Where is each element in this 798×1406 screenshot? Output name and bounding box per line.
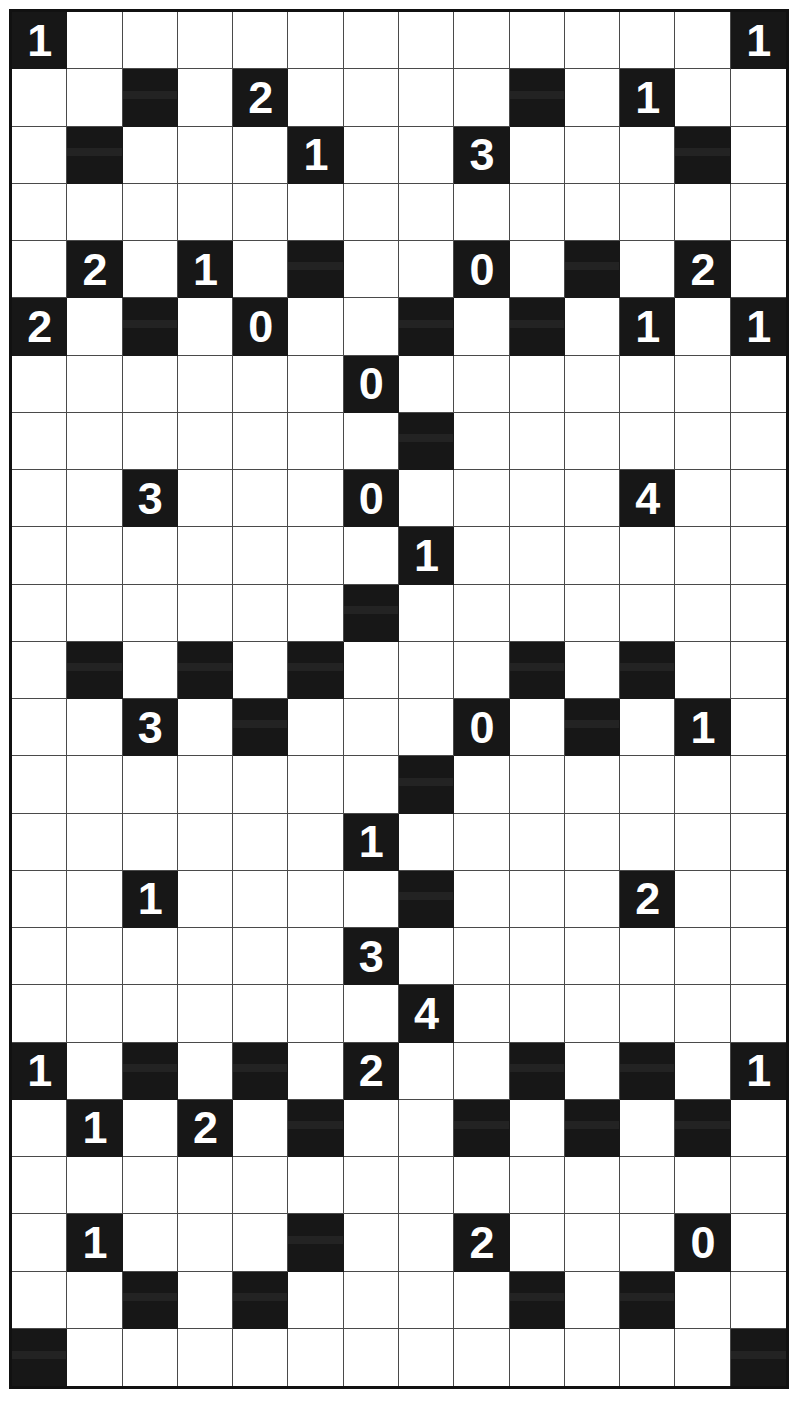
empty-cell-r15-c10[interactable] <box>565 871 620 928</box>
clue-cell-r2-c8[interactable]: 3 <box>454 127 509 184</box>
empty-cell-r13-c0[interactable] <box>12 756 67 813</box>
empty-cell-r8-c1[interactable] <box>67 470 122 527</box>
block-cell-r19-c8[interactable] <box>454 1100 509 1157</box>
empty-cell-r20-c0[interactable] <box>12 1157 67 1214</box>
empty-cell-r15-c3[interactable] <box>178 871 233 928</box>
empty-cell-r20-c12[interactable] <box>675 1157 730 1214</box>
block-cell-r22-c2[interactable] <box>123 1272 178 1329</box>
empty-cell-r22-c7[interactable] <box>399 1272 454 1329</box>
empty-cell-r6-c8[interactable] <box>454 356 509 413</box>
empty-cell-r17-c4[interactable] <box>233 985 288 1042</box>
empty-cell-r23-c12[interactable] <box>675 1329 730 1386</box>
block-cell-r18-c9[interactable] <box>510 1043 565 1100</box>
empty-cell-r15-c9[interactable] <box>510 871 565 928</box>
empty-cell-r0-c5[interactable] <box>288 12 343 69</box>
empty-cell-r2-c3[interactable] <box>178 127 233 184</box>
empty-cell-r12-c0[interactable] <box>12 699 67 756</box>
block-cell-r11-c11[interactable] <box>620 642 675 699</box>
empty-cell-r13-c10[interactable] <box>565 756 620 813</box>
empty-cell-r9-c1[interactable] <box>67 527 122 584</box>
empty-cell-r16-c4[interactable] <box>233 928 288 985</box>
empty-cell-r10-c1[interactable] <box>67 585 122 642</box>
empty-cell-r8-c13[interactable] <box>731 470 786 527</box>
empty-cell-r17-c6[interactable] <box>344 985 399 1042</box>
empty-cell-r14-c9[interactable] <box>510 814 565 871</box>
empty-cell-r4-c2[interactable] <box>123 241 178 298</box>
empty-cell-r12-c1[interactable] <box>67 699 122 756</box>
empty-cell-r2-c13[interactable] <box>731 127 786 184</box>
empty-cell-r9-c13[interactable] <box>731 527 786 584</box>
empty-cell-r15-c8[interactable] <box>454 871 509 928</box>
empty-cell-r23-c6[interactable] <box>344 1329 399 1386</box>
empty-cell-r23-c2[interactable] <box>123 1329 178 1386</box>
clue-cell-r0-c0[interactable]: 1 <box>12 12 67 69</box>
empty-cell-r23-c4[interactable] <box>233 1329 288 1386</box>
empty-cell-r5-c1[interactable] <box>67 298 122 355</box>
empty-cell-r23-c3[interactable] <box>178 1329 233 1386</box>
empty-cell-r9-c9[interactable] <box>510 527 565 584</box>
empty-cell-r15-c4[interactable] <box>233 871 288 928</box>
empty-cell-r11-c4[interactable] <box>233 642 288 699</box>
empty-cell-r19-c0[interactable] <box>12 1100 67 1157</box>
clue-cell-r8-c6[interactable]: 0 <box>344 470 399 527</box>
empty-cell-r13-c6[interactable] <box>344 756 399 813</box>
empty-cell-r12-c9[interactable] <box>510 699 565 756</box>
empty-cell-r7-c0[interactable] <box>12 413 67 470</box>
empty-cell-r20-c8[interactable] <box>454 1157 509 1214</box>
empty-cell-r20-c2[interactable] <box>123 1157 178 1214</box>
empty-cell-r19-c11[interactable] <box>620 1100 675 1157</box>
empty-cell-r18-c10[interactable] <box>565 1043 620 1100</box>
empty-cell-r3-c2[interactable] <box>123 184 178 241</box>
empty-cell-r16-c12[interactable] <box>675 928 730 985</box>
empty-cell-r20-c5[interactable] <box>288 1157 343 1214</box>
clue-cell-r15-c11[interactable]: 2 <box>620 871 675 928</box>
empty-cell-r20-c7[interactable] <box>399 1157 454 1214</box>
empty-cell-r13-c9[interactable] <box>510 756 565 813</box>
empty-cell-r5-c5[interactable] <box>288 298 343 355</box>
empty-cell-r12-c3[interactable] <box>178 699 233 756</box>
empty-cell-r6-c1[interactable] <box>67 356 122 413</box>
empty-cell-r8-c3[interactable] <box>178 470 233 527</box>
clue-cell-r21-c12[interactable]: 0 <box>675 1214 730 1271</box>
empty-cell-r17-c3[interactable] <box>178 985 233 1042</box>
block-cell-r11-c5[interactable] <box>288 642 343 699</box>
clue-cell-r1-c4[interactable]: 2 <box>233 69 288 126</box>
empty-cell-r1-c8[interactable] <box>454 69 509 126</box>
empty-cell-r13-c8[interactable] <box>454 756 509 813</box>
empty-cell-r0-c6[interactable] <box>344 12 399 69</box>
empty-cell-r10-c12[interactable] <box>675 585 730 642</box>
empty-cell-r23-c5[interactable] <box>288 1329 343 1386</box>
empty-cell-r16-c2[interactable] <box>123 928 178 985</box>
block-cell-r5-c2[interactable] <box>123 298 178 355</box>
empty-cell-r3-c1[interactable] <box>67 184 122 241</box>
empty-cell-r16-c1[interactable] <box>67 928 122 985</box>
empty-cell-r6-c0[interactable] <box>12 356 67 413</box>
empty-cell-r1-c12[interactable] <box>675 69 730 126</box>
empty-cell-r14-c8[interactable] <box>454 814 509 871</box>
empty-cell-r22-c12[interactable] <box>675 1272 730 1329</box>
empty-cell-r22-c13[interactable] <box>731 1272 786 1329</box>
empty-cell-r21-c9[interactable] <box>510 1214 565 1271</box>
empty-cell-r14-c13[interactable] <box>731 814 786 871</box>
empty-cell-r21-c6[interactable] <box>344 1214 399 1271</box>
empty-cell-r12-c6[interactable] <box>344 699 399 756</box>
empty-cell-r0-c2[interactable] <box>123 12 178 69</box>
empty-cell-r1-c13[interactable] <box>731 69 786 126</box>
empty-cell-r15-c6[interactable] <box>344 871 399 928</box>
empty-cell-r6-c13[interactable] <box>731 356 786 413</box>
empty-cell-r1-c7[interactable] <box>399 69 454 126</box>
clue-cell-r12-c2[interactable]: 3 <box>123 699 178 756</box>
empty-cell-r2-c0[interactable] <box>12 127 67 184</box>
empty-cell-r16-c5[interactable] <box>288 928 343 985</box>
empty-cell-r6-c10[interactable] <box>565 356 620 413</box>
empty-cell-r20-c1[interactable] <box>67 1157 122 1214</box>
block-cell-r18-c2[interactable] <box>123 1043 178 1100</box>
clue-cell-r21-c1[interactable]: 1 <box>67 1214 122 1271</box>
clue-cell-r17-c7[interactable]: 4 <box>399 985 454 1042</box>
empty-cell-r6-c9[interactable] <box>510 356 565 413</box>
empty-cell-r3-c4[interactable] <box>233 184 288 241</box>
empty-cell-r7-c6[interactable] <box>344 413 399 470</box>
block-cell-r5-c7[interactable] <box>399 298 454 355</box>
empty-cell-r8-c0[interactable] <box>12 470 67 527</box>
empty-cell-r12-c11[interactable] <box>620 699 675 756</box>
